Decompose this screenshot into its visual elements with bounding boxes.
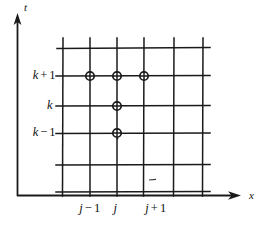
- grid-vline-4: [144, 38, 145, 196]
- grid-vertical-lines: [63, 38, 204, 196]
- x-tick-number: 1: [160, 201, 167, 215]
- grid-vline-6: [203, 38, 204, 196]
- finite-difference-grid-figure: t x k+1 k k−1 j−1 j j+1: [0, 0, 270, 225]
- node-ink-dot: [117, 138, 119, 140]
- y-tick-label-k-minus-1: k−1: [0, 126, 56, 139]
- grid-hline-1: [57, 48, 210, 49]
- grid-horizontal-lines: [56, 48, 210, 193]
- grid-hline-3: [56, 106, 210, 107]
- x-axis-label: x: [249, 190, 254, 201]
- stray-mark: [149, 179, 156, 180]
- grid-hline-2: [56, 76, 210, 77]
- y-tick-operator: −: [39, 125, 50, 139]
- x-tick-label-j-plus-1: j+1: [128, 202, 184, 215]
- y-tick-var: k: [33, 125, 39, 139]
- grid-hline-6: [56, 192, 210, 193]
- x-tick-label-j: j: [104, 202, 130, 215]
- y-tick-operator: +: [39, 68, 50, 82]
- y-tick-label-k: k: [0, 99, 56, 112]
- stray-mark-line: [149, 179, 156, 180]
- y-tick-label-k-plus-1: k+1: [0, 69, 56, 82]
- y-tick-number: 1: [49, 68, 56, 82]
- x-tick-operator: [117, 201, 120, 215]
- x-tick-operator: +: [149, 201, 160, 215]
- y-tick-operator: [53, 98, 56, 112]
- x-tick-number: 1: [94, 201, 101, 215]
- grid-vline-1: [63, 38, 64, 196]
- grid-hline-4: [56, 133, 210, 134]
- y-tick-var: k: [33, 68, 39, 82]
- grid-hline-5: [56, 165, 210, 166]
- grid-vline-5: [174, 38, 175, 196]
- y-tick-number: 1: [49, 125, 56, 139]
- x-tick-operator: −: [83, 201, 94, 215]
- t-axis-label: t: [24, 2, 27, 13]
- diagram-canvas: [0, 0, 270, 225]
